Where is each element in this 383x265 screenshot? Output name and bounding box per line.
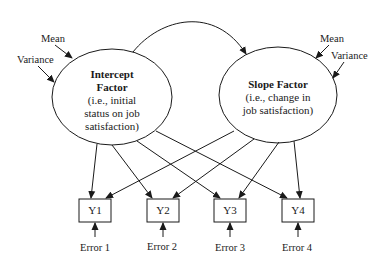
intercept-factor-desc-2: status on job [84, 107, 140, 119]
growth-model-diagram: Intercept Factor (i.e., initial status o… [0, 0, 383, 265]
indicator-y4: Y4 [282, 199, 314, 222]
slope-mean-arrow [316, 45, 329, 58]
error4-label: Error 4 [282, 242, 313, 253]
slope-to-y2-path [173, 139, 254, 198]
intercept-mean-arrow [55, 45, 72, 58]
slope-variance-label: Variance [331, 50, 368, 61]
intercept-to-y2-path [112, 145, 152, 198]
slope-to-y3-path [239, 142, 279, 198]
intercept-factor-desc-3: satisfaction) [85, 120, 139, 133]
intercept-mean-label: Mean [41, 33, 66, 44]
slope-factor-title: Slope Factor [248, 78, 308, 90]
slope-to-y4-path [294, 141, 300, 198]
slope-mean-label: Mean [320, 33, 345, 44]
indicator-y1: Y1 [79, 199, 111, 222]
intercept-variance-label: Variance [17, 54, 54, 65]
slope-factor-desc-2: job satisfaction) [242, 104, 314, 117]
error2-label: Error 2 [147, 241, 177, 252]
intercept-to-y3-path [137, 141, 220, 198]
indicator-y2: Y2 [147, 199, 179, 222]
intercept-factor-title-1: Intercept [90, 68, 134, 80]
svg-text:Y2: Y2 [156, 204, 169, 216]
intercept-factor-desc-1: (i.e., initial [88, 94, 136, 107]
svg-text:Y1: Y1 [88, 204, 101, 216]
error3-label: Error 3 [215, 242, 245, 253]
svg-text:Y4: Y4 [291, 204, 305, 216]
slope-factor-desc-1: (i.e., change in [245, 91, 311, 104]
covariance-arrow [133, 22, 246, 54]
svg-text:Y3: Y3 [223, 204, 237, 216]
intercept-factor-title-2: Factor [96, 81, 127, 93]
error1-label: Error 1 [80, 242, 110, 253]
indicator-y3: Y3 [214, 199, 246, 222]
slope-variance-arrow [333, 62, 344, 78]
intercept-to-y1-path [91, 144, 97, 198]
intercept-variance-arrow [38, 66, 54, 82]
